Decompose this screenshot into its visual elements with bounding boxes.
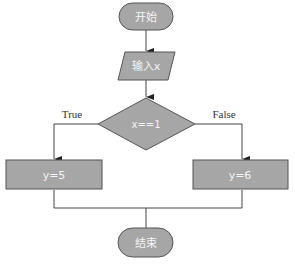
input-node: 输入x xyxy=(118,52,175,80)
true-branch-label: y=5 xyxy=(43,169,66,182)
start-label: 开始 xyxy=(135,10,157,24)
false-edge-label: False xyxy=(212,108,235,120)
true-edge-label: True xyxy=(62,108,82,120)
end-label: 结束 xyxy=(135,237,157,250)
start-node: 开始 xyxy=(119,3,173,30)
edge-decision-false xyxy=(195,124,242,159)
edge-decision-true xyxy=(54,124,98,159)
decision-label: x==1 xyxy=(131,119,160,130)
edge-branches-join xyxy=(54,190,242,208)
decision-node: x==1 xyxy=(98,98,195,150)
end-node: 结束 xyxy=(118,228,173,257)
input-label: 输入x xyxy=(132,59,161,73)
false-branch-node: y=6 xyxy=(193,160,288,189)
false-branch-label: y=6 xyxy=(229,169,252,182)
flowchart: 开始 输入x x==1 True False y=5 y=6 结束 xyxy=(0,0,295,267)
true-branch-node: y=5 xyxy=(6,160,102,189)
